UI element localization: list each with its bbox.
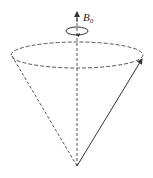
moment-vector	[77, 59, 142, 166]
field-label: B0	[83, 11, 94, 25]
precession-diagram: B0	[0, 0, 153, 178]
cone-edge	[12, 56, 77, 166]
